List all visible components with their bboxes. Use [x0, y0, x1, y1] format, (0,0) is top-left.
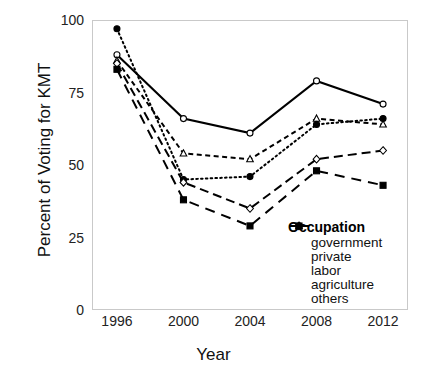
x-tick-label: 1996 — [87, 313, 147, 329]
x-tick-label: 2012 — [353, 313, 413, 329]
data-point-marker — [314, 78, 320, 84]
data-point-marker — [114, 26, 120, 32]
data-point-marker — [247, 174, 253, 180]
legend-item-label: others — [311, 292, 349, 306]
data-point-marker — [313, 115, 320, 121]
data-point-marker — [180, 197, 186, 203]
data-point-marker — [314, 168, 320, 174]
legend-item-others[interactable]: others — [288, 292, 418, 306]
legend-key-icon — [288, 278, 310, 292]
legend-key-icon — [288, 264, 310, 278]
x-tick-label: 2004 — [220, 313, 280, 329]
legend-item-label: labor — [311, 264, 341, 278]
y-tick-label: 75 — [44, 85, 84, 101]
data-point-marker — [180, 116, 186, 122]
legend-item-label: agriculture — [311, 278, 374, 292]
data-point-marker — [380, 101, 386, 107]
data-point-marker — [296, 223, 302, 229]
legend-item-labor[interactable]: labor — [288, 264, 418, 278]
legend-item-label: government — [311, 236, 382, 250]
legend-key-icon — [288, 250, 310, 264]
y-tick-label: 100 — [44, 12, 84, 28]
data-point-marker — [380, 182, 386, 188]
legend-key-icon — [288, 236, 310, 250]
data-point-marker — [247, 130, 253, 136]
legend-item-government[interactable]: government — [288, 236, 418, 250]
y-tick-label: 50 — [44, 157, 84, 173]
legend: Occupation governmentprivatelaboragricul… — [288, 219, 418, 306]
legend-key-icon — [288, 292, 310, 306]
legend-item-private[interactable]: private — [288, 250, 418, 264]
series-private — [114, 57, 387, 162]
x-tick-label: 2008 — [287, 313, 347, 329]
data-point-marker — [380, 147, 387, 155]
series-government — [114, 52, 386, 136]
series-line — [117, 61, 383, 160]
legend-item-agriculture[interactable]: agriculture — [288, 278, 418, 292]
y-axis-tick-labels: 0255075100 — [42, 0, 84, 379]
legend-item-label: private — [311, 250, 352, 264]
chart-container: Percent of Voting for KMT 0255075100 199… — [0, 0, 427, 379]
data-point-marker — [114, 66, 120, 72]
data-point-marker — [380, 116, 386, 122]
y-tick-label: 25 — [44, 230, 84, 246]
data-point-marker — [314, 121, 320, 127]
x-tick-label: 2000 — [153, 313, 213, 329]
y-tick-label: 0 — [44, 302, 84, 318]
data-point-marker — [247, 223, 253, 229]
x-axis-title: Year — [0, 345, 427, 365]
